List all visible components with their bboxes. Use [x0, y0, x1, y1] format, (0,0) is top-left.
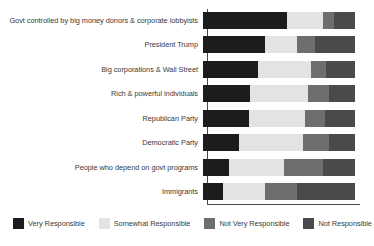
category-label: Immigrants [0, 187, 203, 196]
bar-segment [203, 159, 229, 176]
category-label: Big corporations & Wall Street [0, 65, 203, 74]
bar-segment [258, 61, 311, 78]
bar-segment [303, 134, 329, 151]
legend-swatch-icon [303, 218, 314, 229]
bar-segment [203, 36, 265, 53]
bar-segment [308, 85, 329, 102]
category-label: President Trump [0, 40, 203, 49]
stacked-bar [203, 110, 355, 127]
bar-segment [265, 36, 297, 53]
chart-row: Immigrants [0, 181, 374, 203]
bar-segment [229, 159, 284, 176]
bar-segment [334, 12, 355, 29]
bar-segment [329, 134, 355, 151]
chart-legend: Very ResponsibleSomewhat ResponsibleNot … [13, 216, 365, 230]
chart-row: People who depend on govt programs [0, 156, 374, 178]
bar-segment [203, 12, 287, 29]
bar-segment [223, 183, 266, 200]
legend-item[interactable]: Very Responsible [13, 218, 85, 229]
bar-segment [297, 36, 315, 53]
stacked-bar [203, 159, 355, 176]
bar-segment [311, 61, 326, 78]
bar-segment [284, 159, 324, 176]
plot-area: Govt controlled by big money donors & co… [0, 0, 374, 212]
category-label: Democratic Party [0, 138, 203, 147]
bar-segment [265, 183, 297, 200]
bar-segment [323, 12, 334, 29]
chart-row: President Trump [0, 34, 374, 56]
bar-segment [239, 134, 303, 151]
stacked-bar [203, 183, 355, 200]
bar-segment [315, 36, 355, 53]
stacked-bar [203, 36, 355, 53]
legend-label: Somewhat Responsible [114, 219, 191, 228]
legend-item[interactable]: Not Very Responsible [204, 218, 289, 229]
bar-segment [203, 61, 258, 78]
bar-segment [203, 183, 223, 200]
stacked-bar [203, 61, 355, 78]
chart-row: Democratic Party [0, 132, 374, 154]
legend-item[interactable]: Somewhat Responsible [99, 218, 191, 229]
chart-row: Big corporations & Wall Street [0, 58, 374, 80]
bar-segment [326, 61, 355, 78]
legend-swatch-icon [204, 218, 215, 229]
bar-segment [325, 110, 355, 127]
category-label: People who depend on govt programs [0, 163, 203, 172]
stacked-bar [203, 12, 355, 29]
chart-row: Republican Party [0, 107, 374, 129]
x-axis-line [207, 204, 360, 205]
bar-segment [323, 159, 355, 176]
stacked-bar-chart: Govt controlled by big money donors & co… [0, 0, 374, 246]
legend-label: Very Responsible [28, 219, 85, 228]
category-label: Rich & powerful individuals [0, 89, 203, 98]
legend-swatch-icon [99, 218, 110, 229]
legend-swatch-icon [13, 218, 24, 229]
category-label: Republican Party [0, 114, 203, 123]
bar-segment [287, 12, 323, 29]
bar-segment [250, 85, 308, 102]
bar-segment [203, 85, 250, 102]
legend-label: Not Responsible at All [318, 219, 374, 228]
bar-segment [249, 110, 305, 127]
legend-item[interactable]: Not Responsible at All [303, 218, 374, 229]
bar-segment [305, 110, 325, 127]
bar-segment [329, 85, 355, 102]
chart-row: Rich & powerful individuals [0, 83, 374, 105]
legend-label: Not Very Responsible [219, 219, 289, 228]
category-label: Govt controlled by big money donors & co… [0, 16, 203, 25]
bar-segment [297, 183, 355, 200]
bar-segment [203, 110, 249, 127]
chart-row: Govt controlled by big money donors & co… [0, 9, 374, 31]
stacked-bar [203, 85, 355, 102]
bar-segment [203, 134, 239, 151]
stacked-bar [203, 134, 355, 151]
